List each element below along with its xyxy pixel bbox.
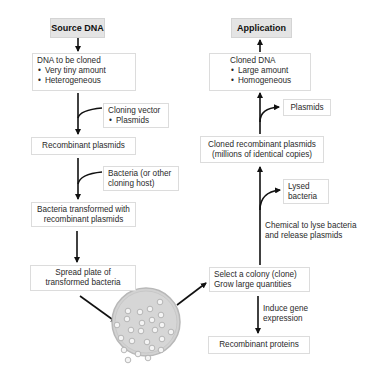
plasmids-label: Plasmids — [290, 103, 323, 113]
lysed-bacteria-box: Lysed bacteria — [283, 179, 329, 204]
spread-plate-line2: transformed bacteria — [45, 278, 120, 288]
cloned-dna-bullet-1: Large amount — [230, 66, 306, 76]
induce-expression-note: Induce gene expression — [263, 304, 308, 324]
transformed-line2: recombinant plasmids — [44, 215, 124, 225]
bacteria-transformed-box: Bacteria transformed with recombinant pl… — [31, 202, 136, 227]
select-line2: Grow large quantities — [214, 280, 305, 290]
vector-box-title: Cloning vector — [108, 106, 164, 116]
spread-plate-line1: Spread plate of — [55, 268, 111, 278]
application-header: Application — [231, 18, 292, 38]
source-dna-label: Source DNA — [51, 23, 104, 33]
cloned-plasmids-line2: (millions of identical copies) — [212, 150, 312, 160]
dna-box-bullet-1: Very tiny amount — [37, 66, 131, 76]
host-box-line2: cloning host) — [108, 179, 174, 189]
petri-dish-icon — [112, 288, 180, 363]
lyse-note-line2: and release plasmids — [265, 231, 356, 241]
lyse-chemical-note: Chemical to lyse bacteria and release pl… — [265, 221, 356, 241]
spread-plate-box: Spread plate of transformed bacteria — [30, 265, 136, 291]
plasmids-box: Plasmids — [283, 99, 331, 116]
vector-box-bullet: Plasmids — [108, 116, 164, 126]
recombinant-proteins-box: Recombinant proteins — [208, 336, 310, 354]
dna-box-title: DNA to be cloned — [37, 56, 131, 66]
dna-to-be-cloned-box: DNA to be cloned Very tiny amount Hetero… — [32, 53, 136, 91]
application-label: Application — [237, 23, 286, 33]
cloned-dna-box: Cloned DNA Large amount Homogeneous — [209, 53, 311, 91]
lyse-note-line1: Chemical to lyse bacteria — [265, 221, 356, 231]
cloned-dna-title: Cloned DNA — [230, 56, 306, 66]
host-box-line1: Bacteria (or other — [108, 169, 174, 179]
select-line1: Select a colony (clone) — [214, 270, 305, 280]
recombinant-plasmids-box: Recombinant plasmids — [31, 137, 136, 155]
transformed-line1: Bacteria transformed with — [37, 205, 130, 215]
arrow-to-plasmids — [260, 107, 279, 122]
dna-box-bullet-2: Heterogeneous — [37, 76, 131, 86]
arrow-dish-to-select — [177, 283, 206, 305]
recombinant-plasmids-label: Recombinant plasmids — [42, 141, 125, 151]
cloning-vector-box: Cloning vector Plasmids — [103, 103, 169, 128]
curve-vector-join — [78, 108, 102, 118]
arrow-to-lysed — [260, 190, 280, 210]
cloned-plasmids-line1: Cloned recombinant plasmids — [208, 140, 316, 150]
arrow-plate-to-dish — [80, 296, 116, 322]
curve-host-join — [78, 172, 102, 184]
induce-line2: expression — [263, 314, 308, 324]
select-colony-box: Select a colony (clone) Grow large quant… — [209, 267, 310, 292]
cloned-recombinant-plasmids-box: Cloned recombinant plasmids (millions of… — [200, 136, 324, 163]
cloning-host-box: Bacteria (or other cloning host) — [103, 166, 179, 191]
lysed-line2: bacteria — [288, 192, 324, 202]
cloned-dna-bullet-2: Homogeneous — [230, 76, 306, 86]
lysed-line1: Lysed — [288, 182, 324, 192]
recombinant-proteins-label: Recombinant proteins — [219, 340, 299, 350]
induce-line1: Induce gene — [263, 304, 308, 314]
source-dna-header: Source DNA — [50, 18, 105, 38]
